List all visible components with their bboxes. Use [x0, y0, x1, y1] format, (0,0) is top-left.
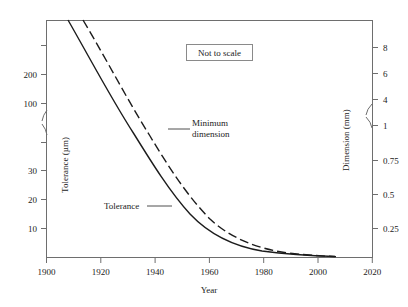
x-tick-label-2020: 2020 — [363, 267, 382, 277]
x-tick-label-2000: 2000 — [309, 267, 328, 277]
left-axis-ticks — [41, 46, 47, 229]
y-right-tick-label-8: 8 — [383, 43, 388, 53]
y-left-axis-title: Tolerance (µm) — [60, 137, 70, 193]
y-left-tick-label-10: 10 — [28, 224, 38, 234]
y-right-tick-label-075: 0.75 — [383, 156, 399, 166]
x-axis-ticks — [47, 258, 373, 264]
chart-figure: 200 100 30 20 10 Tolerance (µm) 8 6 4 1 … — [0, 0, 408, 307]
x-tick-label-1900: 1900 — [38, 267, 57, 277]
y-right-tick-label-05: 0.5 — [383, 190, 395, 200]
x-tick-label-1920: 1920 — [92, 267, 111, 277]
y-left-tick-label-200: 200 — [24, 70, 38, 80]
minimum-dimension-label-line2: dimension — [192, 129, 230, 139]
x-axis-title: Year — [201, 285, 218, 295]
y-left-tick-label-30: 30 — [28, 166, 38, 176]
y-right-tick-label-1: 1 — [383, 121, 388, 131]
minimum-dimension-label-line1: Minimum — [192, 118, 228, 128]
y-right-tick-label-6: 6 — [383, 69, 388, 79]
y-right-tick-label-025: 0.25 — [383, 224, 399, 234]
y-left-tick-label-20: 20 — [28, 195, 38, 205]
not-to-scale-label: Not to scale — [198, 48, 241, 58]
right-axis-ticks — [373, 48, 379, 229]
right-axis-break-lower — [366, 117, 372, 128]
tolerance-annotation-label: Tolerance — [104, 201, 139, 211]
y-right-axis-title: Dimension (mm) — [341, 109, 351, 171]
y-right-tick-label-4: 4 — [383, 95, 388, 105]
chart-canvas: 200 100 30 20 10 Tolerance (µm) 8 6 4 1 … — [0, 0, 408, 307]
y-left-tick-label-100: 100 — [24, 99, 38, 109]
x-tick-label-1960: 1960 — [200, 267, 219, 277]
x-tick-label-1980: 1980 — [255, 267, 274, 277]
x-tick-label-1940: 1940 — [146, 267, 165, 277]
right-axis-break-upper — [366, 104, 372, 115]
